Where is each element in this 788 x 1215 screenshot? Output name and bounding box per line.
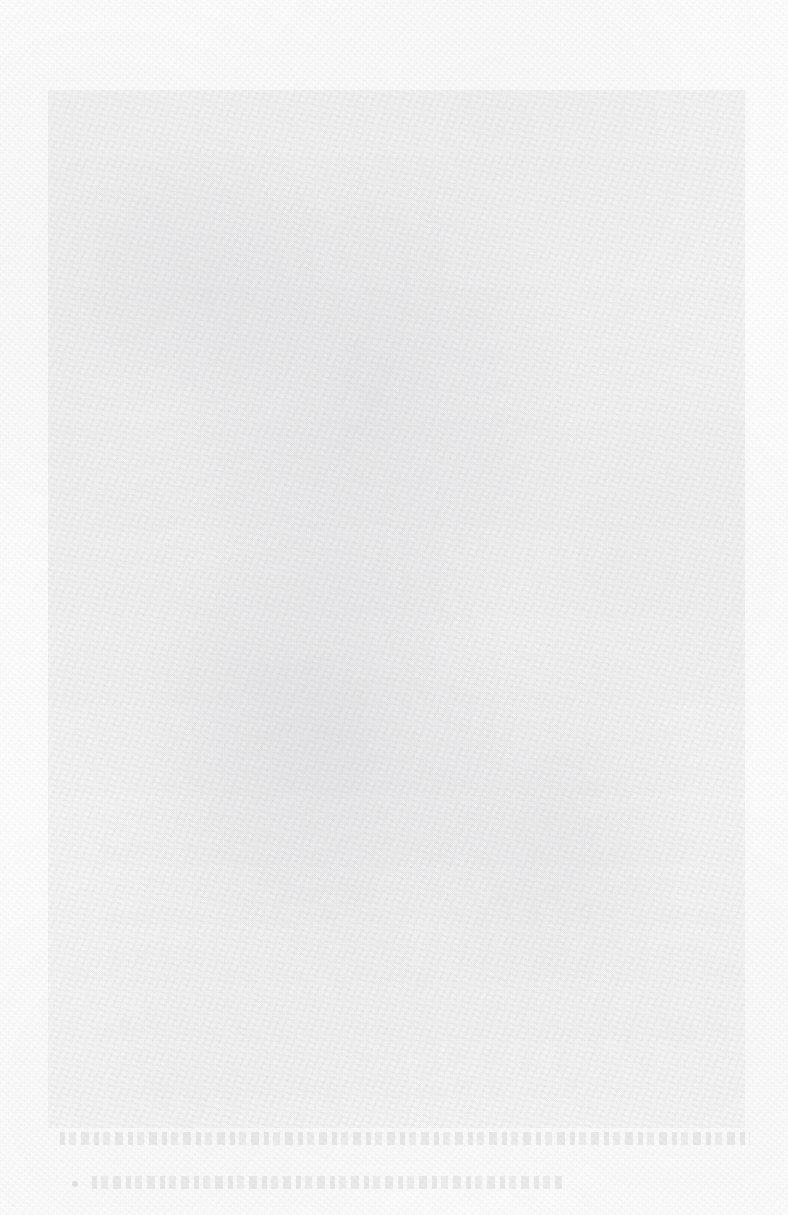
caption-line-primary-text — [60, 1132, 61, 1133]
plate-grain — [48, 90, 745, 1128]
caption-line-secondary — [92, 1176, 562, 1189]
caption-line-primary — [60, 1132, 750, 1145]
caption-line-secondary-text — [92, 1176, 93, 1177]
bullet-icon — [72, 1181, 78, 1187]
illustration-plate — [48, 90, 745, 1128]
scanned-page — [0, 0, 788, 1215]
